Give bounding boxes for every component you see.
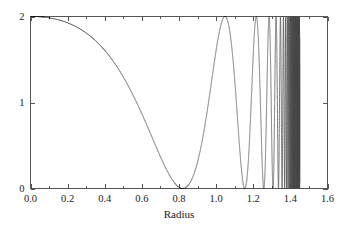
x-tick-label-3: 0.6 (135, 193, 148, 204)
x-tick-label-1: 0.2 (61, 193, 74, 204)
y-tick-label-2: 2 (19, 11, 24, 22)
x-tick-label-6: 1.2 (247, 193, 260, 204)
x-tick-label-8: 1.6 (321, 193, 334, 204)
x-tick-label-5: 1.0 (210, 193, 223, 204)
y-tick-label-0: 0 (19, 183, 24, 194)
chart-figure: 0.00.20.40.60.81.01.21.41.6 012 Radius (0, 0, 353, 232)
x-tick-label-2: 0.4 (98, 193, 112, 204)
x-tick-label-4: 0.8 (172, 193, 185, 204)
x-axis-title: Radius (164, 208, 195, 220)
x-axis-tick-labels: 0.00.20.40.60.81.01.21.41.6 (24, 193, 334, 204)
radius-line-chart: 0.00.20.40.60.81.01.21.41.6 012 Radius (0, 0, 353, 232)
y-tick-label-1: 1 (19, 97, 24, 108)
x-tick-label-0: 0.0 (24, 193, 37, 204)
x-tick-label-7: 1.4 (284, 193, 298, 204)
